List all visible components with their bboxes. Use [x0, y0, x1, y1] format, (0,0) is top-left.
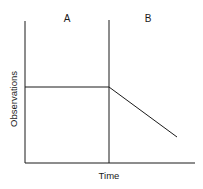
phase-chart: A B Time Observations: [0, 0, 203, 189]
phase-b-label: B: [145, 13, 152, 24]
phase-b-line: [109, 87, 177, 137]
y-axis-label: Observations: [8, 71, 19, 127]
phase-a-label: A: [64, 13, 71, 24]
x-axis-label: Time: [99, 170, 120, 181]
